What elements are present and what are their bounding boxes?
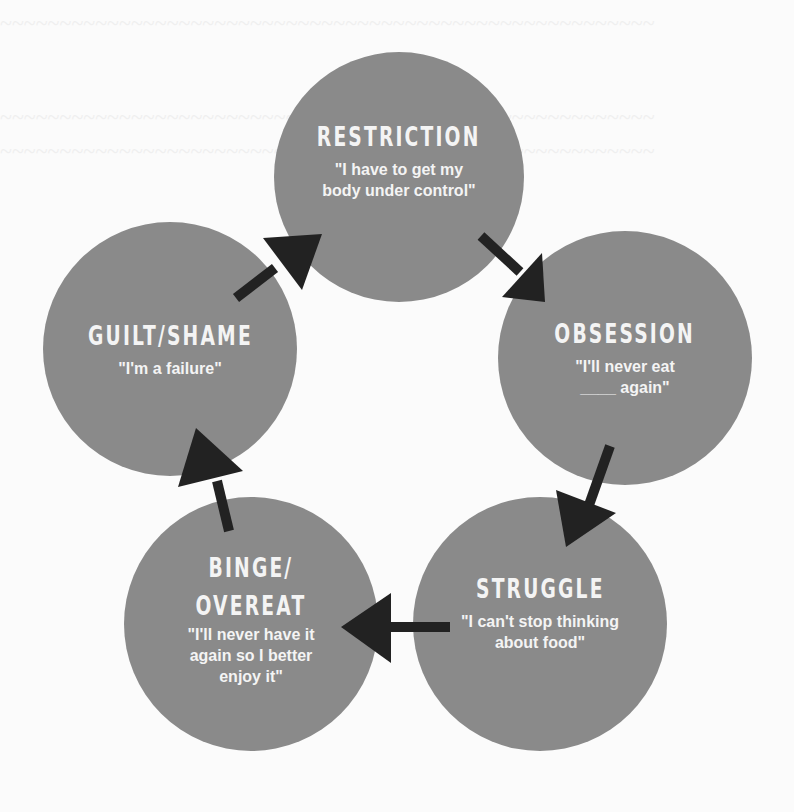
node-quote: "I have to get my body under control" xyxy=(322,159,475,201)
node-struggle: STRUGGLE "I can't stop thinking about fo… xyxy=(413,497,667,751)
node-title: BINGE/ xyxy=(209,552,294,584)
node-title-line2: OVEREAT xyxy=(196,590,307,622)
node-guilt: GUILT/SHAME "I'm a failure" xyxy=(43,222,297,476)
node-quote: "I'll never eat ____ again" xyxy=(575,356,674,398)
node-quote: "I'll never have it again so I better en… xyxy=(188,624,315,687)
node-quote: "I can't stop thinking about food" xyxy=(461,611,619,653)
node-title: GUILT/SHAME xyxy=(88,320,253,352)
diagram-canvas: ~~~~~~~~~~~~~~~~~~~~~~~~~~~~~~~~~~~~~~~~… xyxy=(0,0,794,812)
node-restriction: RESTRICTION "I have to get my body under… xyxy=(274,52,524,302)
node-binge: BINGE/ OVEREAT "I'll never have it again… xyxy=(124,497,378,751)
node-quote: "I'm a failure" xyxy=(118,358,221,379)
node-title: OBSESSION xyxy=(555,318,696,350)
node-obsession: OBSESSION "I'll never eat ____ again" xyxy=(498,231,752,485)
node-title: RESTRICTION xyxy=(317,121,481,153)
node-title: STRUGGLE xyxy=(476,573,605,605)
